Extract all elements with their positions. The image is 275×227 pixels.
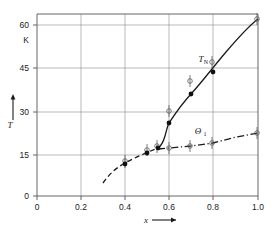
ytick-label-45: 45 [20,63,30,73]
filled-marker [189,92,194,97]
chart-figure: 60 45 30 15 0 K 0 0.2 0.4 0.6 0.8 1.0 x … [0,0,275,227]
x-tick-marks [37,196,258,200]
xtick-label-04: 0.4 [119,202,131,212]
filled-marker [211,70,216,75]
ytick-label-0: 0 [24,191,29,201]
filled-marker [156,146,161,151]
y-axis-arrow-icon [11,94,16,120]
ytick-label-30: 30 [20,107,30,117]
xtick-label-0: 0 [35,202,40,212]
annotation-theta-subscript: 1 [204,131,207,137]
y-unit-label: K [23,35,29,45]
y-tick-marks [33,25,37,196]
chart-svg: 60 45 30 15 0 K 0 0.2 0.4 0.6 0.8 1.0 x … [0,0,275,227]
xtick-label-08: 0.8 [207,202,219,212]
y-axis-title: T [7,120,13,130]
x-axis-title: x [143,215,148,225]
ytick-label-15: 15 [20,150,30,160]
plot-background [37,14,258,196]
ytick-label-60: 60 [20,20,30,30]
xtick-label-10: 1.0 [252,202,264,212]
filled-marker [123,162,128,167]
xtick-label-02: 0.2 [75,202,87,212]
x-axis-arrow-icon [152,218,176,223]
annotation-theta-symbol: Θ [195,126,202,136]
filled-marker [167,121,172,126]
annotation-tn-subscript: N [204,59,209,65]
xtick-label-06: 0.6 [163,202,175,212]
filled-marker [145,151,150,156]
